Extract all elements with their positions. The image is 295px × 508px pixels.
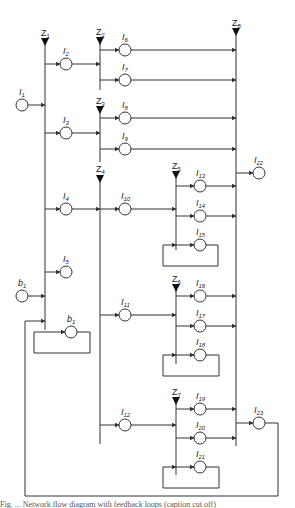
bus-label-z5: Z5 <box>172 161 182 172</box>
svg-text:I21: I21 <box>196 449 205 460</box>
svg-text:I5: I5 <box>63 254 70 265</box>
svg-text:I6: I6 <box>122 32 129 43</box>
node-i12: I12 <box>119 407 131 431</box>
node-i2: I2 <box>60 46 72 70</box>
svg-text:I15: I15 <box>196 227 206 238</box>
node-i6: I6 <box>119 32 131 56</box>
network-diagram: Z1 Z2 Z3 Z4 Z5 Z6 Z7 Z8 <box>0 0 295 508</box>
bus-marker-icon <box>232 28 240 36</box>
bus-marker-icon <box>172 397 180 405</box>
svg-text:I23: I23 <box>254 405 264 416</box>
bus-marker-icon <box>172 171 180 179</box>
bus-label-z4: Z4 <box>96 164 106 175</box>
node-i10: I10 <box>119 191 131 215</box>
bus-label-z8: Z8 <box>232 18 242 29</box>
svg-text:I1: I1 <box>19 87 25 98</box>
svg-text:I20: I20 <box>196 420 206 431</box>
bus-marker-icon <box>41 38 49 46</box>
svg-text:I2: I2 <box>63 46 70 57</box>
node-i16: I16 <box>194 278 206 302</box>
bus-z7: Z7 <box>172 387 182 475</box>
node-i17: I17 <box>194 308 206 332</box>
svg-text:I18: I18 <box>196 337 206 348</box>
bus-marker-icon <box>96 106 104 114</box>
bus-label-z1: Z1 <box>41 28 51 39</box>
node-i22: I22 <box>253 155 265 179</box>
node-i14: I14 <box>194 198 206 222</box>
svg-text:I3: I3 <box>63 115 70 126</box>
bus-marker-icon <box>96 175 104 183</box>
svg-text:I22: I22 <box>254 155 264 166</box>
bus-label-z3: Z3 <box>96 96 106 107</box>
svg-text:I12: I12 <box>121 407 131 418</box>
svg-text:I13: I13 <box>196 168 206 179</box>
svg-text:I8: I8 <box>122 100 129 111</box>
figure-caption: Fig. ... Network flow diagram with feedb… <box>0 500 295 508</box>
node-i21: I21 <box>194 449 206 473</box>
node-i7: I7 <box>119 62 131 86</box>
svg-text:I19: I19 <box>196 391 206 402</box>
bus-z5: Z5 <box>172 161 182 250</box>
bus-label-z7: Z7 <box>172 387 182 398</box>
node-i4: I4 <box>60 191 72 215</box>
node-i20: I20 <box>194 420 206 444</box>
bus-marker-icon <box>172 284 180 292</box>
svg-text:I11: I11 <box>121 297 130 308</box>
svg-text:I14: I14 <box>196 198 206 209</box>
node-i5: I5 <box>60 254 72 278</box>
svg-text:b1: b1 <box>67 314 75 325</box>
svg-text:b1: b1 <box>18 278 26 289</box>
bus-marker-icon <box>96 37 104 45</box>
svg-text:I16: I16 <box>196 278 206 289</box>
bus-z6: Z6 <box>172 274 182 364</box>
svg-text:I17: I17 <box>196 308 206 319</box>
bus-z3: Z3 <box>96 96 106 162</box>
bus-z4: Z4 <box>96 164 106 444</box>
node-i15: I15 <box>194 227 206 251</box>
node-b1-loop: b1 <box>65 314 77 338</box>
node-i11: I11 <box>119 297 131 321</box>
node-b1-input: b1 <box>16 278 28 302</box>
bus-z8: Z8 <box>232 18 242 446</box>
bus-label-z2: Z2 <box>96 27 106 38</box>
node-i9: I9 <box>119 131 131 155</box>
bus-z1: Z1 <box>41 28 51 330</box>
node-i1: I1 <box>16 87 28 111</box>
node-i3: I3 <box>60 115 72 139</box>
node-i18: I18 <box>194 337 206 361</box>
node-i19: I19 <box>194 391 206 415</box>
node-i8: I8 <box>119 100 131 124</box>
svg-text:I9: I9 <box>122 131 129 142</box>
node-i13: I13 <box>194 168 206 192</box>
bus-label-z6: Z6 <box>172 274 182 285</box>
svg-text:I10: I10 <box>121 191 131 202</box>
svg-text:I4: I4 <box>63 191 70 202</box>
bus-z2: Z2 <box>96 27 106 90</box>
node-i23: I23 <box>253 405 265 429</box>
svg-text:I7: I7 <box>122 62 129 73</box>
